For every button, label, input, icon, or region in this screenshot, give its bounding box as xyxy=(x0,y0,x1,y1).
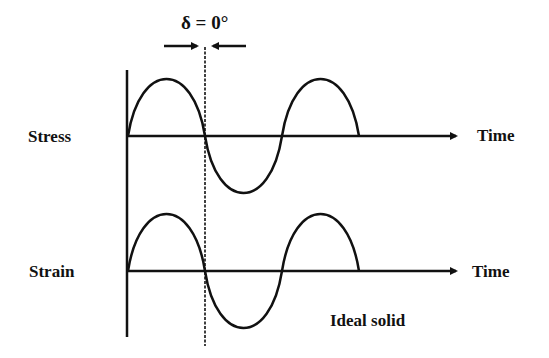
strain-time-label: Time xyxy=(472,263,509,280)
caption-ideal-solid: Ideal solid xyxy=(330,312,405,329)
stress-strain-diagram xyxy=(0,0,549,358)
stress-time-label: Time xyxy=(477,127,514,144)
stress-label: Stress xyxy=(28,128,71,145)
strain-label: Strain xyxy=(29,263,74,280)
phase-angle-label: δ = 0° xyxy=(181,13,228,32)
